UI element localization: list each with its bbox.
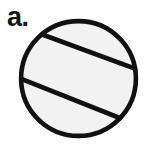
figure-panel: a. (0, 0, 147, 149)
panel-label: a. (7, 4, 29, 31)
